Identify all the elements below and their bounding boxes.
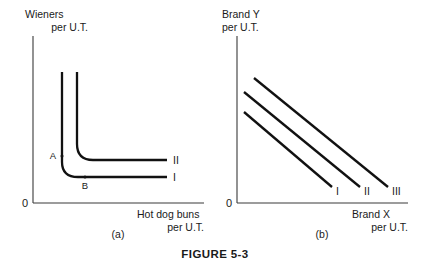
panel-a-point-label-b: B <box>82 180 88 191</box>
panel-b-x-axis-label-line2: per U.T. <box>371 221 408 233</box>
panel-b-y-axis-label-line2: per U.T. <box>222 21 259 33</box>
panel-b-origin-label: 0 <box>226 197 232 209</box>
panel-b-curve-I <box>244 112 332 187</box>
figure-container: Wieners per U.T. 0 A B II I Hot dog buns… <box>0 0 430 270</box>
panel-a-point-label-a: A <box>50 150 57 161</box>
panel-a: Wieners per U.T. 0 A B II I Hot dog buns… <box>22 8 204 240</box>
panel-a-point-b-dot <box>84 176 87 179</box>
panel-b: Brand Y per U.T. 0 I II III Brand X per … <box>222 8 408 240</box>
panel-a-label: (a) <box>112 228 125 240</box>
panel-a-x-axis-label-line1: Hot dog buns <box>137 208 199 220</box>
panel-a-y-axis-label-line2: per U.T. <box>51 21 88 33</box>
panel-a-y-axis-label-line1: Wieners <box>25 8 64 20</box>
panel-a-x-axis-label-line2: per U.T. <box>167 221 204 233</box>
panel-a-origin-label: 0 <box>22 197 28 209</box>
figure-caption: FIGURE 5-3 <box>181 248 248 260</box>
panel-a-curve-label-II: II <box>173 154 179 166</box>
panel-b-label: (b) <box>316 228 329 240</box>
panel-b-curve-label-II: II <box>364 185 370 197</box>
panel-a-curve-II <box>77 72 167 160</box>
panel-a-curve-label-I: I <box>173 171 176 183</box>
panel-b-curve-III <box>254 78 388 187</box>
panel-b-y-axis-label-line1: Brand Y <box>222 8 260 20</box>
panel-b-curve-label-I: I <box>336 185 339 197</box>
panel-b-curve-II <box>244 92 360 187</box>
panel-a-point-a-dot <box>61 155 64 158</box>
panel-b-curve-label-III: III <box>392 185 401 197</box>
figure-canvas: Wieners per U.T. 0 A B II I Hot dog buns… <box>0 0 430 270</box>
panel-b-x-axis-label-line1: Brand X <box>352 208 390 220</box>
